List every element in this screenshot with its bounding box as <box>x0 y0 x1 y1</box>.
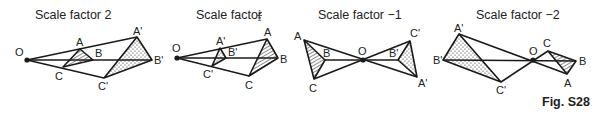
ray-OC <box>27 60 104 78</box>
label-C: C <box>309 82 317 94</box>
panel-title: Scale factor −1 <box>318 8 402 22</box>
panel-title: Scale factor 2 <box>35 8 111 22</box>
label-O: O <box>529 45 538 57</box>
panel-scale-factor-minus-2: Scale factor −2 O A B C A' B' C' <box>433 8 586 96</box>
label-B-prime: B' <box>228 46 237 58</box>
label-C: C <box>543 37 551 49</box>
label-O: O <box>172 42 181 54</box>
label-B-prime: B' <box>433 54 442 66</box>
label-A: A <box>564 77 572 89</box>
label-C-prime: C' <box>98 80 108 92</box>
centre-point <box>530 57 535 62</box>
figure-caption: Fig. S28 <box>542 95 590 109</box>
label-C: C <box>55 70 63 82</box>
label-B: B <box>323 47 330 59</box>
label-B: B <box>579 55 586 67</box>
label-A: A <box>264 26 272 38</box>
label-A: A <box>294 30 302 42</box>
label-C-prime: C' <box>410 27 420 39</box>
label-B-prime: B' <box>154 54 163 66</box>
panel-title: Scale factor <box>196 8 262 22</box>
label-A-prime: A' <box>454 22 463 34</box>
label-A: A <box>76 36 84 48</box>
label-B-prime: B' <box>389 47 398 59</box>
centre-point <box>360 57 365 62</box>
panel-title: Scale factor −2 <box>476 8 560 22</box>
image-triangle <box>443 34 501 82</box>
centre-point <box>24 57 29 62</box>
label-B: B <box>95 47 102 59</box>
line-CC-prime <box>501 51 548 82</box>
panel-scale-factor-minus-1: Scale factor −1 O A B C A' B' C' <box>294 8 427 94</box>
label-C-prime: C' <box>496 84 506 96</box>
label-A-prime: A' <box>133 25 142 37</box>
enlargement-diagrams: Scale factor 2 O A B C A' B' C' Scale fa… <box>0 0 602 116</box>
label-B: B <box>280 53 287 65</box>
panel-scale-factor-2: Scale factor 2 O A B C A' B' C' <box>15 8 163 92</box>
label-O: O <box>15 46 24 58</box>
label-O: O <box>358 45 367 57</box>
label-A-prime: A' <box>418 77 427 89</box>
label-C-prime: C' <box>203 68 213 80</box>
panel-scale-factor-half: Scale factor 1 2 O A B C A' B' C' <box>172 8 287 91</box>
label-C: C <box>245 79 253 91</box>
centre-point <box>174 55 179 60</box>
label-A-prime: A' <box>216 35 225 47</box>
object-triangle <box>548 51 576 74</box>
